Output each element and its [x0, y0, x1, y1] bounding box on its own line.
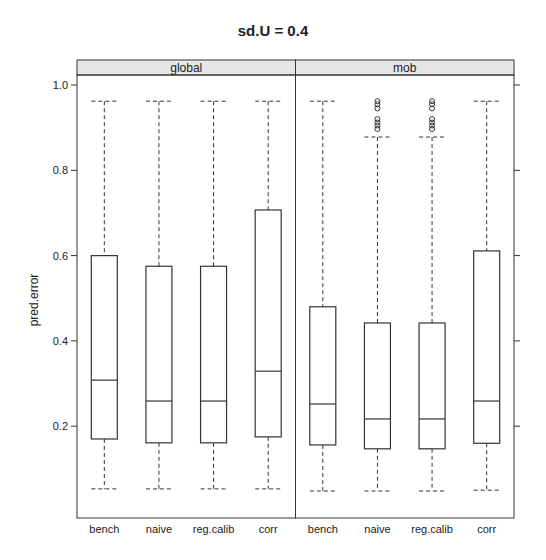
panel-frame-global [77, 75, 296, 518]
outlier-point [430, 126, 435, 131]
strip-label-mob: mob [393, 61, 417, 75]
y-axis-label: pred.error [27, 274, 41, 327]
y-tick-label: 0.4 [53, 335, 68, 347]
box-global-corr [255, 210, 281, 437]
y-tick-label: 0.6 [53, 250, 68, 262]
outlier-point [375, 126, 380, 131]
box-mob-reg.calib [419, 323, 445, 449]
x-tick-label: corr [477, 523, 496, 535]
strip-label-global: global [170, 61, 202, 75]
chart-title: sd.U = 0.4 [238, 22, 309, 39]
x-tick-label: reg.calib [411, 523, 453, 535]
x-tick-label: bench [89, 523, 119, 535]
x-tick-label: reg.calib [193, 523, 235, 535]
panel-frame-mob [296, 75, 515, 518]
x-tick-label: naive [146, 523, 172, 535]
y-tick-label: 0.8 [53, 164, 68, 176]
box-mob-corr [474, 251, 500, 443]
box-global-naive [146, 266, 172, 443]
box-global-reg.calib [201, 266, 227, 443]
x-tick-label: corr [259, 523, 278, 535]
x-tick-label: bench [308, 523, 338, 535]
box-global-bench [91, 256, 117, 439]
box-mob-naive [364, 323, 390, 449]
boxplot-chart: sd.U = 0.4 pred.error globalbenchnaivere… [0, 0, 546, 560]
x-tick-label: naive [364, 523, 390, 535]
y-tick-label: 1.0 [53, 79, 68, 91]
y-tick-label: 0.2 [53, 420, 68, 432]
plot-area: globalbenchnaivereg.calibcorrmobbenchnai… [53, 60, 520, 535]
box-mob-bench [310, 307, 336, 445]
